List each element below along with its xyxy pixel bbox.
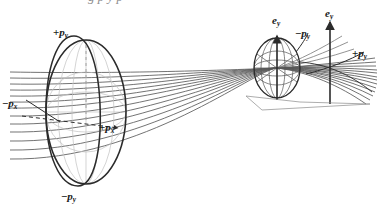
label-subscript-y-right: y — [364, 53, 367, 61]
label-subscript-x-left: x — [14, 103, 18, 111]
label-large-ellipsoid-bottom: −py — [61, 191, 76, 205]
label-subscript-y-small: y — [307, 33, 310, 41]
figure-canvas: g p y p — [0, 0, 380, 219]
label-subscript-y-top: y — [65, 32, 68, 40]
label-small-ellipsoid-neg-py: −py — [295, 28, 310, 42]
label-large-ellipsoid-top: +py — [53, 27, 68, 41]
label-large-ellipsoid-left: −px — [2, 98, 17, 112]
label-large-ellipsoid-center: +px — [99, 122, 114, 136]
ray-bundle-upper-return — [277, 36, 354, 68]
label-subscript-y-bottom: y — [73, 196, 76, 204]
label-subscript-x-center: x — [111, 127, 115, 135]
label-right-pos-py: +py — [352, 48, 367, 62]
large-ellipsoid-group — [22, 36, 126, 186]
label-right-ey: ey — [325, 8, 333, 22]
label-subscript-y-e-right: y — [330, 13, 333, 21]
label-subscript-y-e-small: y — [277, 20, 280, 28]
label-small-ellipsoid-ey: ey — [272, 15, 280, 29]
ray-bundle-group — [10, 58, 377, 159]
ground-plane-lines — [246, 96, 370, 110]
